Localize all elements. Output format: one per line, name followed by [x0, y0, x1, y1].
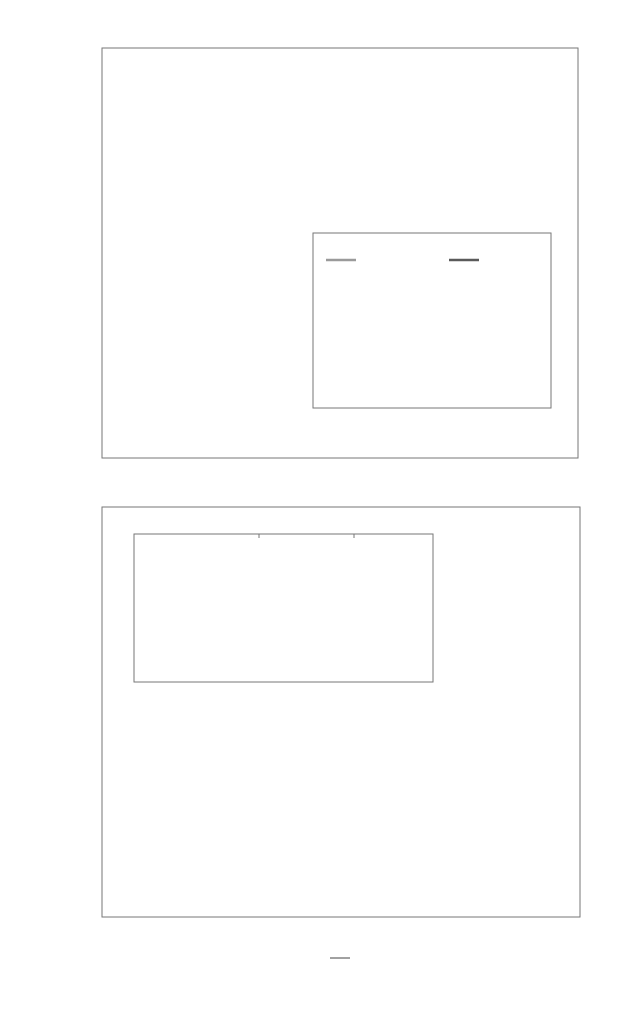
- bottom-inset-frame: [134, 534, 433, 682]
- figure: [0, 0, 620, 1010]
- bottom-plot: [0, 0, 580, 958]
- top-inset-plot: [0, 0, 551, 408]
